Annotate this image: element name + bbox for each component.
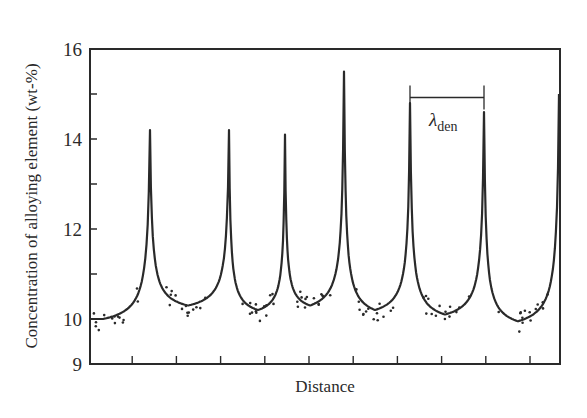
data-point [524,310,527,313]
data-point [358,301,361,304]
data-point [521,321,524,324]
data-point [296,301,299,304]
data-point [95,325,98,328]
data-point [181,308,184,311]
y-tick-label: 9 [73,354,83,375]
data-point [382,316,385,319]
data-point [269,294,272,297]
data-point [425,312,428,315]
data-point [535,308,538,311]
data-point [98,329,101,332]
data-point [122,319,125,322]
data-point [186,315,189,318]
plot-frame [90,49,560,364]
data-point [304,298,307,301]
y-tick-label: 10 [63,309,82,330]
y-tick-label: 14 [63,129,83,150]
measured-points [93,286,549,333]
y-tick-label: 12 [63,219,82,240]
data-point [320,293,323,296]
data-point [362,314,365,317]
x-axis-ticks [132,356,530,364]
data-point [259,320,262,323]
plot-border [90,49,560,364]
data-point [444,310,447,313]
data-point [255,312,258,315]
y-axis-title: Concentration of alloying element (wt-%) [22,63,41,348]
data-point [122,321,125,324]
x-axis-title: Distance [295,377,354,396]
data-point [170,290,173,293]
data-point [95,321,98,324]
y-axis-tick-labels: 910121416 [63,39,83,375]
data-point [444,318,447,321]
data-point [376,312,379,315]
data-point [313,297,316,300]
data-point [165,286,168,289]
data-point [317,303,320,306]
lambda-den-label: λden [428,109,457,134]
data-point [137,300,140,303]
data-point [304,306,307,309]
data-point [518,330,521,333]
data-point [529,319,532,322]
data-point [449,306,452,309]
data-point [536,303,539,306]
data-point [430,313,433,316]
data-point [199,307,202,310]
data-point [448,315,451,318]
y-tick-label: 16 [63,39,82,60]
data-point [297,305,300,308]
lambda-subscript: den [437,119,457,134]
data-point [378,303,381,306]
data-point [299,291,302,294]
lambda-den-annotation: λden [410,86,484,134]
data-point [271,293,274,296]
data-point [188,311,191,314]
chart: 910121416 λden Distance Concentration of… [0,0,587,418]
data-point [425,295,428,298]
data-point [438,305,441,308]
data-point [272,303,275,306]
data-point [519,311,522,314]
data-point [392,307,395,310]
data-point [265,314,268,317]
data-point [195,306,198,309]
lambda-symbol: λ [428,109,437,130]
data-point [542,307,545,310]
data-point [174,294,177,297]
data-point [170,294,173,297]
data-point [358,309,361,312]
data-point [376,319,379,322]
data-point [372,318,375,321]
data-point [427,298,430,301]
data-point [528,311,531,314]
data-point [329,294,332,297]
data-point [192,308,195,311]
data-point [251,311,254,314]
data-point [249,302,252,305]
y-axis-ticks [90,94,97,319]
data-point [435,314,438,317]
data-point [169,304,172,307]
concentration-curve [90,72,559,322]
data-point [114,322,117,325]
data-point [136,287,139,290]
data-point [390,310,393,313]
data-point [255,303,258,306]
data-point [300,296,303,299]
data-point [497,311,500,314]
data-point [365,310,368,313]
data-point [241,303,244,306]
data-point [103,314,106,317]
data-point [93,312,96,315]
